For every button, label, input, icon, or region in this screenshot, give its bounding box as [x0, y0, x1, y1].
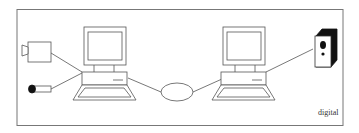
microphone-icon	[29, 85, 52, 93]
network-ellipse	[161, 83, 193, 101]
diagram-svg	[0, 0, 359, 133]
diagram-canvas: digital	[0, 0, 359, 133]
speaker-icon	[315, 29, 337, 67]
diagram-caption: digital	[318, 108, 338, 117]
diagram-frame	[17, 10, 343, 126]
